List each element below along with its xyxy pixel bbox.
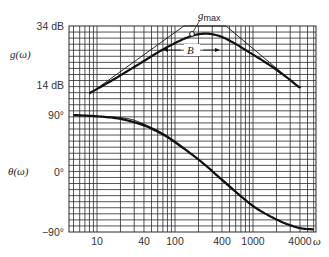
x-tick-100: 100 — [166, 235, 184, 247]
x-tick-40: 40 — [138, 235, 150, 247]
bandwidth-label: B — [187, 44, 194, 56]
x-tick-4000: 4000 — [288, 235, 312, 247]
gmax-marker — [190, 32, 195, 37]
x-axis-label-omega: ω — [313, 235, 321, 247]
gain-axis-label: g(ω) — [10, 48, 31, 61]
y-tick-14db: 14 dB — [37, 79, 64, 91]
gain-asymptote-line — [89, 26, 300, 94]
y-tick-34db: 34 dB — [37, 20, 64, 32]
plot-grid — [69, 26, 316, 232]
x-tick-10: 10 — [91, 235, 103, 247]
gmax-label: gmax — [198, 9, 221, 23]
bode-plot: gmax B 34 dB 14 dB 90° 0° −90° g(ω) θ(ω)… — [0, 0, 329, 257]
arrowhead-right-icon — [215, 48, 220, 52]
x-tick-400: 400 — [213, 235, 231, 247]
x-tick-1000: 1000 — [241, 235, 265, 247]
y-tick-0deg: 0° — [54, 166, 64, 178]
gain-curve — [89, 34, 300, 94]
y-tick-minus90deg: −90° — [42, 226, 64, 238]
phase-curve — [74, 115, 314, 229]
phase-axis-label: θ(ω) — [8, 165, 29, 178]
y-tick-90deg: 90° — [48, 109, 64, 121]
phase-approx-curve — [74, 116, 314, 230]
